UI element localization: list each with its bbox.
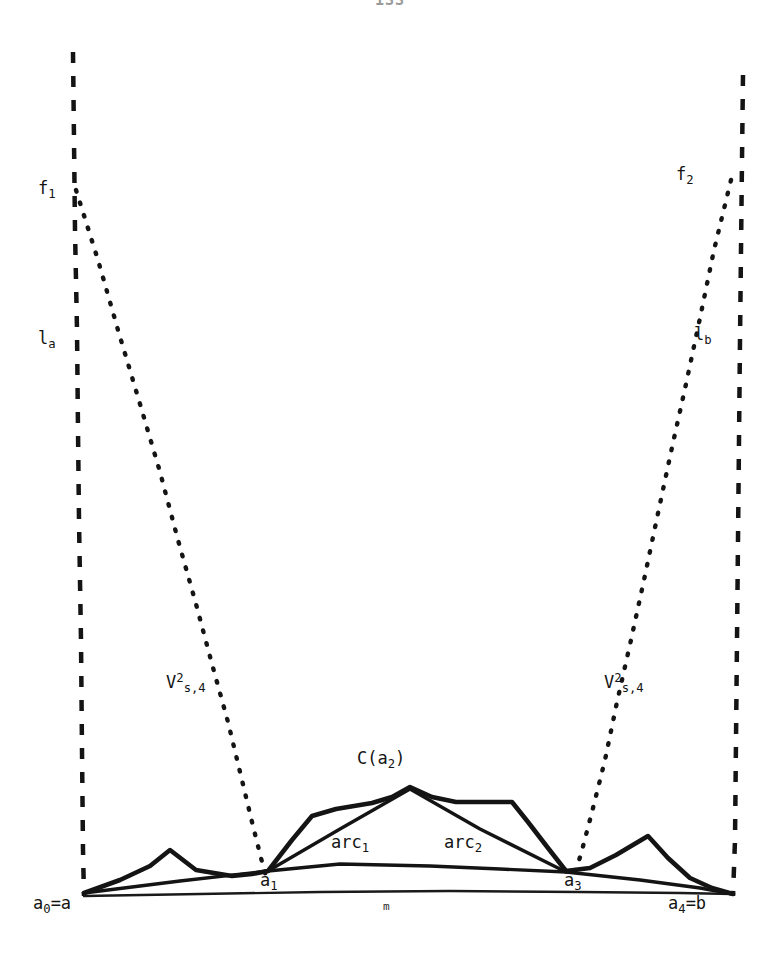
label-a4-equals-b: a4=b	[668, 895, 706, 912]
label-f2-main: f	[676, 164, 686, 184]
label-variation-right-sup: 2	[614, 671, 621, 685]
label-f1-main: f	[38, 178, 48, 198]
label-a0-suffix: =a	[51, 893, 71, 913]
label-arc2-sub: 2	[475, 841, 482, 855]
figure-canvas	[0, 0, 780, 976]
label-arc2: arc2	[444, 834, 482, 851]
label-c-a2: C(a2)	[357, 750, 405, 767]
label-a3-sub: 3	[574, 879, 581, 893]
label-variation-left-sub: s,4	[184, 681, 206, 695]
chord-lower	[84, 864, 733, 894]
label-variation-left-main: V	[166, 672, 176, 692]
label-a3-main: a	[564, 870, 574, 890]
label-arc1-main: arc	[331, 832, 362, 852]
label-lb-main: l	[694, 324, 704, 344]
label-f1: f1	[38, 180, 56, 197]
label-a1: a1	[260, 872, 278, 889]
label-la-sub: a	[48, 337, 55, 351]
label-arc1: arc1	[331, 834, 369, 851]
label-a4-sub: 4	[678, 902, 685, 916]
chord-arcs	[268, 789, 566, 872]
label-c-a2-prefix: C(	[357, 748, 377, 768]
label-a1-main: a	[260, 870, 270, 890]
label-arc1-sub: 1	[362, 841, 369, 855]
label-c-a2-sub: 2	[388, 757, 395, 771]
label-la-main: l	[38, 328, 48, 348]
label-variation-right-sub: s,4	[622, 681, 644, 695]
label-lb-sub: b	[704, 333, 711, 347]
label-f2: f2	[676, 166, 694, 183]
label-a4-main: a	[668, 893, 678, 913]
label-variation-left-sup: 2	[176, 671, 183, 685]
label-variation-right: V2s,4	[604, 674, 644, 691]
label-a0-equals-a: a0=a	[33, 895, 71, 912]
dashed-line-lb	[733, 75, 743, 896]
dotted-curve-f2	[572, 180, 731, 882]
dotted-curve-f1	[76, 190, 267, 880]
dashed-line-la	[73, 52, 84, 896]
label-m: m	[383, 901, 390, 912]
label-a3: a3	[564, 872, 582, 889]
label-lb: lb	[694, 326, 712, 343]
label-a4-suffix: =b	[686, 893, 706, 913]
figure-page: 133 f1 la f2 lb V2s,4 V	[0, 0, 780, 976]
label-a1-sub: 1	[270, 879, 277, 893]
label-arc2-main: arc	[444, 832, 475, 852]
label-variation-right-main: V	[604, 672, 614, 692]
label-a0-sub: 0	[43, 902, 50, 916]
label-la: la	[38, 330, 56, 347]
label-f2-sub: 2	[686, 173, 693, 187]
label-c-a2-suffix: )	[395, 748, 405, 768]
label-variation-left: V2s,4	[166, 674, 206, 691]
label-c-a2-main: a	[377, 748, 387, 768]
label-a0-main: a	[33, 893, 43, 913]
label-f1-sub: 1	[48, 187, 55, 201]
baseline-m	[84, 891, 733, 896]
